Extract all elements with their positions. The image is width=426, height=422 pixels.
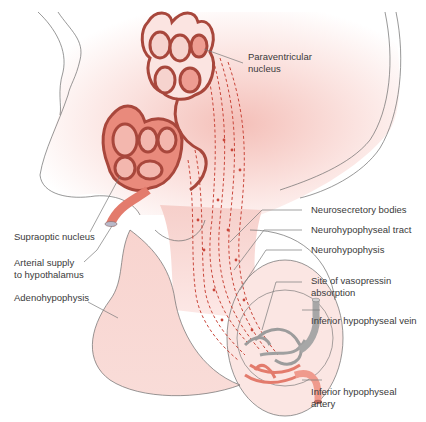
label-neurohypophyseal-tract: Neurohypophyseal tract <box>311 224 411 236</box>
label-line-1: Site of vasopressin <box>311 275 391 287</box>
label-line-1: Arterial supply <box>14 257 84 269</box>
label-vasopressin-site: Site of vasopressin absorption <box>311 275 391 299</box>
label-line-2: artery <box>311 398 397 410</box>
hypothalamus-region <box>38 12 400 215</box>
label-arterial-supply: Arterial supply to hypothalamus <box>14 257 84 281</box>
label-line-1: Paraventricular <box>248 51 312 63</box>
label-supraoptic-nucleus: Supraoptic nucleus <box>14 231 95 243</box>
label-line-1: Inferior hypophyseal <box>311 386 397 398</box>
label-paraventricular-nucleus: Paraventricular nucleus <box>248 51 312 75</box>
label-line-2: to hypothalamus <box>14 269 84 281</box>
label-inferior-hypophyseal-artery: Inferior hypophyseal artery <box>311 386 397 410</box>
label-line-2: nucleus <box>248 63 312 75</box>
paraventricular-nucleus-cells <box>142 13 213 99</box>
label-neurosecretory-bodies: Neurosecretory bodies <box>311 204 407 216</box>
label-adenohypophysis: Adenohypophysis <box>14 292 89 304</box>
label-neurohypophysis: Neurohypophysis <box>311 244 384 256</box>
label-inferior-hypophyseal-vein: Inferior hypophyseal vein <box>311 315 417 327</box>
diagram-canvas: Paraventricular nucleus Supraoptic nucle… <box>0 0 426 422</box>
label-line-2: absorption <box>311 287 391 299</box>
